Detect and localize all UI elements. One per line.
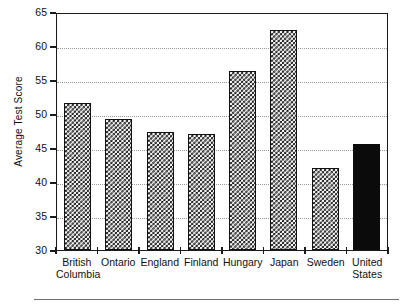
x-axis-category: Finland <box>181 251 223 291</box>
x-axis-category: Hungary <box>222 251 264 291</box>
bar-slot <box>181 14 222 250</box>
x-axis-label: Finland <box>181 257 223 269</box>
footer-divider <box>34 299 399 300</box>
x-axis-category: United States <box>347 251 389 291</box>
x-axis-label: England <box>139 257 181 269</box>
bar-slot <box>305 14 346 250</box>
bar[interactable] <box>64 103 91 250</box>
x-axis-label: Hungary <box>222 257 264 269</box>
bar[interactable] <box>147 132 174 250</box>
x-tick-mark <box>97 247 99 254</box>
bar[interactable] <box>229 71 256 250</box>
y-tick-label: 35 <box>35 210 47 222</box>
y-tick-label: 40 <box>35 176 47 188</box>
x-axis-category: Ontario <box>98 251 140 291</box>
x-tick-mark <box>263 247 265 254</box>
x-axis-category: England <box>139 251 181 291</box>
y-tick-label: 30 <box>35 244 47 256</box>
bar-slot <box>346 14 387 250</box>
bar-chart-figure: Average Test Score 65 60 55 50 45 40 35 <box>0 0 405 306</box>
x-axis-category: British Columbia <box>56 251 98 291</box>
x-tick-mark <box>304 247 306 254</box>
bar[interactable] <box>353 144 380 250</box>
bar[interactable] <box>312 168 339 250</box>
x-tick-mark <box>180 247 182 254</box>
bar[interactable] <box>188 134 215 250</box>
y-tick-label: 65 <box>35 6 47 18</box>
x-axis-category: Sweden <box>305 251 347 291</box>
x-axis-label: Ontario <box>98 257 140 269</box>
y-tick-label: 60 <box>35 40 47 52</box>
x-tick-mark <box>221 247 223 254</box>
bar-slot <box>140 14 181 250</box>
y-axis-title: Average Test Score <box>13 52 24 192</box>
bar-slot <box>98 14 139 250</box>
x-tick-mark <box>55 247 57 254</box>
bar-slot <box>263 14 304 250</box>
plot-area <box>56 13 388 251</box>
x-axis-labels: British ColumbiaOntarioEnglandFinlandHun… <box>56 251 388 291</box>
x-tick-mark <box>346 247 348 254</box>
x-axis-label: British Columbia <box>56 257 98 280</box>
x-axis-label: Japan <box>264 257 306 269</box>
x-tick-mark <box>387 247 389 254</box>
bar[interactable] <box>105 119 132 250</box>
y-tick-label: 50 <box>35 108 47 120</box>
y-tick-label: 55 <box>35 74 47 86</box>
y-tick-label: 45 <box>35 142 47 154</box>
x-axis-label: Sweden <box>305 257 347 269</box>
x-axis-category: Japan <box>264 251 306 291</box>
bar-series <box>57 14 387 250</box>
x-tick-mark <box>138 247 140 254</box>
bar-slot <box>222 14 263 250</box>
x-axis-label: United States <box>347 257 389 280</box>
bar-slot <box>57 14 98 250</box>
bar[interactable] <box>270 30 297 250</box>
